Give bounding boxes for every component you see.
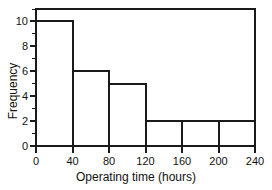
y-tick-label: 8 (22, 41, 28, 52)
plot-area: 0246810 04080120160200240 (35, 8, 256, 147)
x-tick-major (108, 147, 110, 153)
x-tick-label: 80 (103, 156, 115, 167)
x-tick-label: 40 (66, 156, 78, 167)
y-tick-label: 10 (16, 16, 28, 27)
x-tick-label: 240 (246, 156, 264, 167)
x-tick-label: 120 (136, 156, 154, 167)
x-tick-major (181, 147, 183, 153)
y-tick-label: 2 (22, 116, 28, 127)
axis-spine-top (35, 8, 256, 10)
y-tick-minor (32, 9, 35, 10)
x-tick-major (35, 147, 37, 153)
x-tick-major (218, 147, 220, 153)
y-axis-title: Frequency (6, 31, 20, 151)
histogram-bar (218, 120, 257, 146)
x-tick-label: 200 (209, 156, 227, 167)
histogram-bar (145, 120, 184, 146)
x-tick-major (145, 147, 147, 153)
x-tick-label: 160 (173, 156, 191, 167)
x-axis-title: Operating time (hours) (0, 170, 272, 184)
y-tick-label: 4 (22, 91, 28, 102)
x-tick-major (72, 147, 74, 153)
histogram-bar (181, 120, 220, 146)
histogram-bar (35, 20, 74, 146)
histogram-bar (72, 70, 111, 146)
y-tick-label: 6 (22, 66, 28, 77)
histogram-figure: Frequency 0246810 04080120160200240 Oper… (0, 0, 272, 190)
y-tick-label: 0 (22, 141, 28, 152)
x-tick-label: 0 (33, 156, 39, 167)
histogram-bar (108, 83, 147, 146)
x-tick-major (254, 147, 256, 153)
